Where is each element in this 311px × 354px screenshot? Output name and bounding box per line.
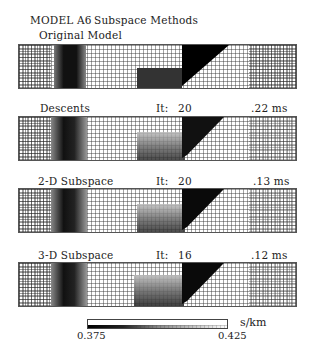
panel-label-2d-subspace: 2-D Subspace [38, 175, 114, 187]
iteration-value: 20 [178, 175, 192, 187]
iteration-value: 20 [178, 102, 192, 114]
heatmap-2d-subspace [18, 188, 297, 233]
time-value: .13 ms [253, 175, 290, 187]
iteration-value: 16 [178, 249, 192, 261]
iteration-label: It: [156, 102, 169, 114]
colorbar-max-label: 0.425 [218, 330, 247, 341]
figure-title-left: MODEL A6 [30, 14, 92, 26]
panel-label-original: Original Model [39, 29, 122, 41]
colorbar [87, 319, 228, 329]
colorbar-min-label: 0.375 [77, 330, 106, 341]
panel-label-descents: Descents [40, 102, 90, 114]
figure-title-right: Subspace Methods [94, 14, 198, 26]
iteration-label: It: [156, 175, 169, 187]
iteration-label: It: [156, 249, 169, 261]
heatmap-3d-subspace [18, 262, 297, 307]
panel-label-3d-subspace: 3-D Subspace [38, 249, 114, 261]
heatmap-original-model [18, 44, 297, 89]
colorbar-unit-label: s/km [240, 316, 266, 329]
heatmap-descents [18, 116, 297, 161]
time-value: .12 ms [251, 249, 288, 261]
time-value: .22 ms [251, 102, 288, 114]
